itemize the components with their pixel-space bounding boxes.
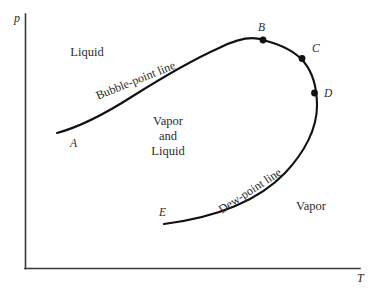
point-dot-D	[311, 90, 318, 97]
region-label-vapor-and-liquid-line2: and	[159, 129, 178, 143]
point-label-D: D	[323, 87, 333, 99]
region-label-vapor-and-liquid-line1: Vapor	[153, 114, 184, 128]
y-axis-label: p	[13, 11, 20, 25]
phase-diagram-canvas: p T A B C D E Liquid Vapor and Liquid Va…	[0, 0, 380, 294]
point-label-B: B	[258, 21, 265, 33]
curve-label-bubble-point-line: Bubble-point line	[94, 58, 177, 103]
x-axis-label: T	[357, 271, 365, 285]
region-label-vapor: Vapor	[296, 199, 327, 213]
region-label-liquid: Liquid	[70, 45, 104, 59]
point-dot-C	[299, 55, 306, 62]
phase-diagram-figure: p T A B C D E Liquid Vapor and Liquid Va…	[0, 0, 380, 294]
point-label-C: C	[312, 42, 320, 54]
region-label-vapor-and-liquid: Vapor and Liquid	[151, 114, 185, 158]
point-label-E: E	[158, 206, 166, 218]
point-label-A: A	[69, 137, 78, 149]
region-label-vapor-and-liquid-line3: Liquid	[151, 144, 185, 158]
point-dot-B	[260, 37, 267, 44]
curve-label-dew-point-line: Dew-point line	[216, 165, 284, 216]
